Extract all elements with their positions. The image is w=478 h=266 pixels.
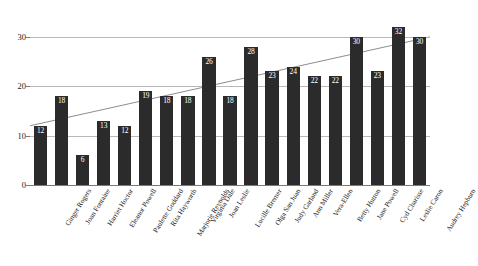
y-axis-tick-label: 0 xyxy=(4,181,26,190)
bar[interactable]: 12 xyxy=(34,126,47,185)
bar-value-label: 23 xyxy=(265,72,278,80)
bar-value-label: 32 xyxy=(392,28,405,36)
bar[interactable]: 30 xyxy=(413,37,426,185)
y-axis-tick-mark xyxy=(26,86,30,87)
bar-value-label: 22 xyxy=(329,77,342,85)
bar-value-label: 26 xyxy=(202,58,215,66)
bar-value-label: 18 xyxy=(160,97,173,105)
bar-value-label: 18 xyxy=(223,97,236,105)
bar[interactable]: 26 xyxy=(202,57,215,185)
bar-value-label: 19 xyxy=(139,92,152,100)
y-axis-tick-mark xyxy=(26,185,30,186)
bar[interactable]: 24 xyxy=(287,67,300,185)
y-axis-tick-mark xyxy=(26,37,30,38)
bar[interactable]: 23 xyxy=(371,71,384,185)
bar-value-label: 12 xyxy=(118,127,131,135)
y-axis-tick-label: 10 xyxy=(4,132,26,141)
bar[interactable]: 30 xyxy=(350,37,363,185)
bar-value-label: 28 xyxy=(244,48,257,56)
bar[interactable]: 32 xyxy=(392,27,405,185)
bar-value-label: 23 xyxy=(371,72,384,80)
bar-value-label: 6 xyxy=(76,156,89,164)
bar-value-label: 30 xyxy=(413,38,426,46)
axis-baseline xyxy=(30,185,430,186)
bar-value-label: 13 xyxy=(97,122,110,130)
bar-value-label: 30 xyxy=(350,38,363,46)
bar[interactable]: 22 xyxy=(308,76,321,185)
x-axis-labels: Ginger RogersJoan FontaineHarriet Hoctor… xyxy=(30,188,430,266)
bar-value-label: 18 xyxy=(55,97,68,105)
bar[interactable]: 6 xyxy=(76,155,89,185)
y-axis-tick-label: 30 xyxy=(4,33,26,42)
bar-value-label: 24 xyxy=(287,68,300,76)
bar[interactable]: 19 xyxy=(139,91,152,185)
bar-value-label: 18 xyxy=(181,97,194,105)
bar[interactable]: 13 xyxy=(97,121,110,185)
bar[interactable]: 12 xyxy=(118,126,131,185)
bar[interactable]: 28 xyxy=(244,47,257,185)
y-axis-tick-label: 20 xyxy=(4,82,26,91)
x-axis-label: Audrey Hepburn xyxy=(446,188,478,233)
bar[interactable]: 18 xyxy=(55,96,68,185)
bar-value-label: 22 xyxy=(308,77,321,85)
bar[interactable]: 18 xyxy=(160,96,173,185)
bar[interactable]: 23 xyxy=(265,71,278,185)
gridline xyxy=(30,37,430,38)
y-axis-tick-mark xyxy=(26,136,30,137)
bar[interactable]: 18 xyxy=(223,96,236,185)
bar[interactable]: 18 xyxy=(181,96,194,185)
bar-value-label: 12 xyxy=(34,127,47,135)
bar[interactable]: 22 xyxy=(329,76,342,185)
x-axis-label: Vera-Ellen xyxy=(333,188,355,218)
